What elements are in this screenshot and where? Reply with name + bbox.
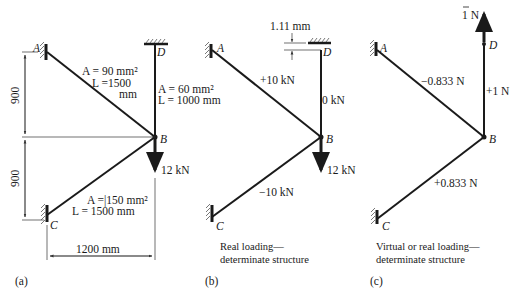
joint-label-c: C: [50, 219, 58, 231]
caption-c: (c): [370, 275, 383, 288]
panel-c: 1 N A B C D −0.833 N +1 N +0.833 N Virtu…: [370, 7, 510, 288]
member-bc-length: L = 1500 mm: [72, 205, 135, 217]
support-d-icon: [308, 38, 331, 43]
joint-label-d: D: [322, 46, 332, 58]
force-bc-label: +0.833 N: [434, 177, 478, 189]
force-ab-label: +10 kN: [260, 74, 296, 86]
joint-label-b: B: [160, 133, 167, 145]
description-line-2: determinate structure: [376, 254, 465, 265]
force-bc-label: −10 kN: [259, 186, 295, 198]
support-d-icon: [144, 39, 168, 44]
dim-horizontal-label: 1200 mm: [76, 243, 120, 255]
gap-label: 1.11 mm: [270, 20, 311, 32]
joint-label-c: C: [216, 220, 224, 232]
joint-label-d: D: [156, 46, 166, 58]
support-a-icon: [205, 42, 211, 58]
member-ab-length-unit: mm: [119, 88, 137, 100]
load-label: 12 kN: [161, 164, 190, 176]
force-bd-label: 0 kN: [322, 94, 345, 106]
joint-label-c: C: [382, 220, 390, 232]
joint-label-b: B: [489, 133, 496, 145]
load-label: 12 kN: [327, 164, 356, 176]
truss-diagram: A B C D A = 90 mm² L =1500 mm A = 60 mm²…: [0, 0, 530, 301]
description-line-1: Virtual or real loading—: [376, 241, 480, 252]
member-bd-length: L = 1000 mm: [158, 94, 221, 106]
caption-a: (a): [15, 275, 28, 288]
member-ab-area: A = 90 mm²: [82, 65, 138, 77]
support-a-icon: [40, 42, 46, 60]
gap-indicator: [284, 33, 321, 60]
dimension-lines: [22, 52, 155, 260]
joint-label-b: B: [326, 133, 333, 145]
description-line-2: determinate structure: [220, 254, 309, 265]
joint-label-d: D: [488, 39, 498, 51]
member-bc: [212, 137, 321, 217]
panel-a: A B C D A = 90 mm² L =1500 mm A = 60 mm²…: [9, 39, 221, 288]
dim-upper-label: 900: [9, 87, 21, 105]
virtual-load-label: 1 N: [462, 9, 480, 21]
force-bd-label: +1 N: [486, 85, 510, 97]
support-a-icon: [370, 40, 376, 56]
support-c-icon: [371, 208, 377, 224]
member-ab: [377, 50, 484, 137]
member-ab: [212, 50, 321, 137]
joint-label-a: A: [216, 42, 225, 54]
joint-label-a: A: [379, 42, 388, 54]
panel-b: 1.11 mm A B C D +10 kN 0 kN −10 kN 12 kN…: [205, 20, 356, 288]
support-c-icon: [206, 204, 212, 222]
support-c-icon: [41, 204, 47, 224]
force-ab-label: −0.833 N: [421, 75, 465, 87]
caption-b: (b): [205, 275, 219, 288]
dim-lower-label: 900: [9, 170, 21, 188]
description-line-1: Real loading—: [220, 241, 284, 252]
